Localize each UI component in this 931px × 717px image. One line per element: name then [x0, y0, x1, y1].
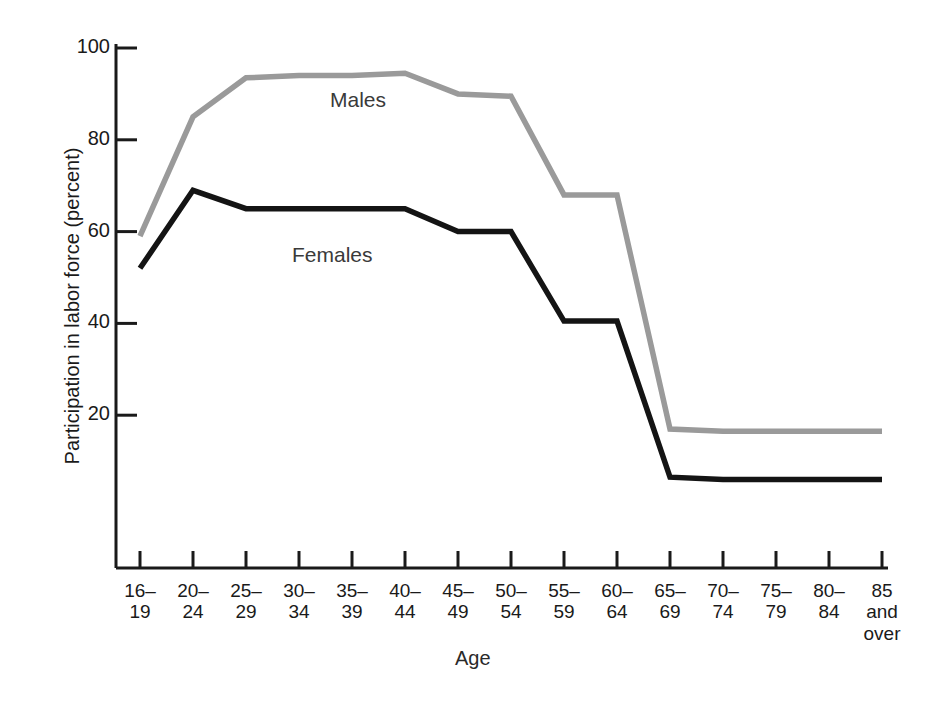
- y-axis-title: Participation in labor force (percent): [61, 148, 83, 465]
- x-category-label-line: 59: [537, 601, 591, 622]
- x-category-label: 85andover: [855, 580, 909, 644]
- x-category-label-line: 85: [855, 580, 909, 601]
- x-category-label-line: 70–: [696, 580, 750, 601]
- x-category-label: 16–19: [113, 580, 167, 623]
- x-category-label-line: and: [855, 601, 909, 622]
- x-category-label: 35–39: [325, 580, 379, 623]
- y-tick-label: 100: [77, 35, 110, 57]
- x-category-label: 65–69: [643, 580, 697, 623]
- x-category-label: 30–34: [272, 580, 326, 623]
- x-category-label: 45–49: [431, 580, 485, 623]
- x-category-label-line: 69: [643, 601, 697, 622]
- chart-figure: Participation in labor force (percent) 2…: [0, 0, 931, 717]
- x-category-label: 55–59: [537, 580, 591, 623]
- x-category-label-line: 54: [484, 601, 538, 622]
- x-category-label-line: 84: [802, 601, 856, 622]
- x-category-label-line: 74: [696, 601, 750, 622]
- x-category-label-line: 35–: [325, 580, 379, 601]
- x-category-label: 60–64: [590, 580, 644, 623]
- x-category-label: 25–29: [219, 580, 273, 623]
- x-category-label: 80–84: [802, 580, 856, 623]
- x-category-label-line: 25–: [219, 580, 273, 601]
- x-category-label-line: 50–: [484, 580, 538, 601]
- x-category-label-line: 44: [378, 601, 432, 622]
- x-axis-title: Age: [455, 647, 491, 670]
- x-category-label-line: 60–: [590, 580, 644, 601]
- x-category-label-line: 30–: [272, 580, 326, 601]
- x-axis-ticks: [140, 551, 882, 568]
- x-category-label: 70–74: [696, 580, 750, 623]
- y-tick-label: 40: [88, 310, 110, 332]
- x-category-label-line: 19: [113, 601, 167, 622]
- series-line-females: [140, 190, 882, 479]
- x-category-label-line: 39: [325, 601, 379, 622]
- series-line-males: [140, 73, 882, 431]
- x-category-label-line: 49: [431, 601, 485, 622]
- x-category-label: 75–79: [749, 580, 803, 623]
- x-category-label-line: 20–: [166, 580, 220, 601]
- y-axis-ticks: [116, 48, 137, 415]
- series-annotation-females: Females: [292, 243, 373, 267]
- x-category-label: 50–54: [484, 580, 538, 623]
- x-category-label-line: over: [855, 623, 909, 644]
- x-category-label-line: 75–: [749, 580, 803, 601]
- x-category-label-line: 16–: [113, 580, 167, 601]
- x-category-label: 20–24: [166, 580, 220, 623]
- x-category-label-line: 80–: [802, 580, 856, 601]
- x-category-label-line: 64: [590, 601, 644, 622]
- x-category-label-line: 29: [219, 601, 273, 622]
- x-category-label: 40–44: [378, 580, 432, 623]
- x-category-label-line: 65–: [643, 580, 697, 601]
- x-category-label-line: 55–: [537, 580, 591, 601]
- x-category-label-line: 34: [272, 601, 326, 622]
- series-annotation-males: Males: [330, 88, 386, 112]
- y-tick-label: 60: [88, 219, 110, 241]
- y-tick-label: 80: [88, 127, 110, 149]
- data-series-layer: [140, 73, 882, 479]
- x-category-label-line: 40–: [378, 580, 432, 601]
- y-tick-label: 20: [88, 402, 110, 424]
- x-category-label-line: 24: [166, 601, 220, 622]
- x-category-label-line: 79: [749, 601, 803, 622]
- x-category-label-line: 45–: [431, 580, 485, 601]
